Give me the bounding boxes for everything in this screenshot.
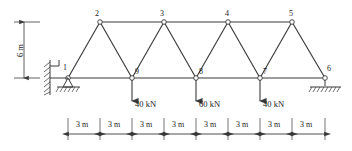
load-label-node-7: 40 kN [263,100,284,109]
panel-dimension-label-2: 3 m [108,121,120,129]
load-label-node-8: 60 kN [199,100,220,109]
joint-6 [323,76,328,81]
support-roller-right [309,80,341,92]
node-label-3: 3 [160,10,164,18]
member-diag-4-7 [228,22,260,78]
member-diag-5-6 [292,22,325,78]
node-label-5: 5 [289,10,293,18]
panel-dimension-label-8: 3 m [300,121,312,129]
member-diag-1-2 [68,22,100,78]
joint-8 [194,76,199,81]
joint-3 [162,20,167,25]
ground-hatching-right [309,87,340,92]
node-label-8: 8 [199,68,203,76]
node-label-2: 2 [95,10,99,18]
joint-5 [290,20,295,25]
node-label-6: 6 [327,65,331,73]
load-arrows [132,80,260,101]
ground-hatching-left [56,87,79,92]
panel-dimension-label-3: 3 m [140,121,152,129]
joint-9 [130,76,135,81]
node-label-9: 9 [135,68,139,76]
dimension-panels [68,118,325,140]
member-diag-3-8 [164,22,196,78]
panel-dimension-label-6: 3 m [236,121,248,129]
dimension-extension-lines [68,118,325,140]
wall-hatching [44,62,50,95]
panel-dimension-label-7: 3 m [268,121,280,129]
panel-dimension-label-1: 3 m [76,121,88,129]
node-label-4: 4 [225,10,229,18]
member-diag-2-9 [100,22,132,78]
load-label-node-9: 40 kN [135,100,156,109]
joint-7 [258,76,263,81]
truss-diagram-canvas: 6 m 1 2 3 4 5 6 7 8 9 40 kN 60 kN 40 kN … [0,0,352,151]
truss-members [68,22,325,78]
panel-dimension-label-5: 3 m [204,121,216,129]
joint-2 [98,20,103,25]
node-label-7: 7 [263,68,267,76]
panel-dimension-label-4: 3 m [172,121,184,129]
pin-triangle [63,78,73,87]
height-dimension-label: 6 m [16,44,25,57]
joint-4 [226,20,231,25]
node-label-1: 1 [63,64,67,72]
